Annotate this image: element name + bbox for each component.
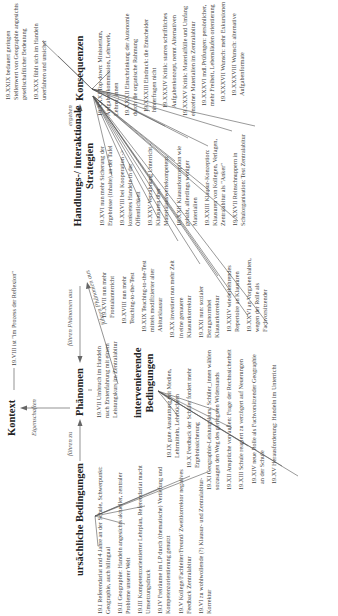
konsequenzen-item: 19.XXXVII Wunsch: mehr Exkursionen [219,2,227,116]
intervenierende-item: 19.IX gute Ausstattung mit Medien, Lehrm… [165,348,181,498]
kontext-note: 19.VIII ist "im Prozess der Reflexion" [10,271,18,366]
node-intervenierende-bedingungen: intervenierende Bedingungen [132,348,156,418]
konsequenzen-item: 19.XXXIV Kritik: starres schriftliches A… [161,2,177,116]
konsequenzen-item: 19.XXXIII Eindruck: die Entscheider hint… [142,2,158,116]
edge-eigenschaften: Eigenschaften [30,399,37,436]
strategien-item: 19.XVIII nun mehr Teaching-to-the-Test [120,258,136,338]
paradigm-diagram: Kontext 19.VIII ist "im Prozess der Refl… [0,0,338,616]
strategien-item: 19.XXI nun: sozialer Bezugsnormbei Klaus… [197,258,221,338]
intervenierende-item: 19.X Feedback der Schüler fordert mehr E… [185,348,201,498]
konsequenzen-item: 19.XXIX bedauert geringen Stellenwert vo… [4,2,28,100]
strategien-list-left: 19.XVII nun mehr Frontalunterricht 19.XV… [100,258,269,338]
strategien-item: 19.XVII nun mehr Frontalunterricht [100,258,116,338]
intervenierende-list: 19.IX gute Ausstattung mit Medien, Lehrm… [165,348,278,498]
ursaechliche-item: 19.III Kompetenzorientierter Lehrplan, R… [136,464,152,614]
intervenierende-item: 19.XV Herausforderung: Handeln im Unterr… [270,348,278,498]
konsequenzen-top-list: 19.XXIX bedauert geringen Stellenwert vo… [4,2,48,100]
intervenierende-item: 19.XI Geographie-Leistungskurs: Schüler_… [205,348,221,498]
strategien-item: 19.XXIII Klausur-Konzeption: Klausuren v… [203,131,227,226]
edge-fuehren-zu: führen zu [66,432,73,456]
strategien-item: 19.XXV Verzahnung Unterricht - Klausuren… [146,131,170,226]
phaenomen-item: 19.VII Umbruch im Handeln nach Erstenfah… [95,338,119,418]
konsequenzen-item: 19.XXX fühlt sich im Handeln unerfahren … [32,2,48,100]
konsequenzen-item: 19.XXXV Kritik: Materialfülle und Umfang… [181,2,197,116]
ursaechliche-item: 19.II Geographie: Handeln angesichts akt… [116,464,132,614]
konsequenzen-item: 19.XXXI Top-down: Ministerium, Aufgabenk… [96,2,120,116]
strategien-item: 19.XVI nun mehr Sicherung der Ergebnisse… [98,131,114,226]
strategien-item: 19.XXIV wiederkehrendes Repertoire an Kl… [225,258,241,338]
ursaechliche-item: 19.I Referendariat und 4 Jahre an der Sc… [96,464,112,614]
konsequenzen-item: 19.XXXVI mdl.Prüfungen: persönlicher, me… [200,2,216,116]
intervenierende-item: 19.XIV neue Rolle als Fachvorsitzender G… [250,348,266,498]
konsequenzen-item: 19.XXXVIII Wunsch: alternative Aufgabenf… [230,2,246,116]
strategien-item: 19.XX investiert nun mehr Zeit in eine g… [168,258,192,338]
node-phaenomen: Phänomen [74,368,85,416]
strategien-item: 19.XIX Teaching-to-the-Test mittels modi… [140,258,164,338]
konsequenzen-list: 19.XXXI Top-down: Ministerium, Aufgabenk… [96,2,246,116]
intervenierende-item: 19.XIII Schule reagiert zu verzögert auf… [237,348,245,498]
node-konsequenzen: Konsequenzen [74,36,85,101]
strategien-item: 19.XXVII Reinschnuppern in Schulorganisa… [231,131,247,226]
node-kontext: Kontext [6,400,17,436]
edge-ergeben: ergeben [66,105,73,126]
node-ursaechliche-bedingungen: ursächliche Bedingungen [74,463,85,576]
strategien-item: 19.XXII Klausurkonzeption wie gehabt, al… [175,131,199,226]
strategien-item: 19.XXVIII bei Kooperation -> konkretes H… [118,131,142,226]
konsequenzen-item: 19.XXXII Einschränkung der Autonomie dur… [123,2,139,116]
strategien-item: 19.XXVI an Vorgaben halten, wegen der Ro… [245,258,269,338]
edge-fuehren-phaenomen-aus: führen Phänomen aus [66,289,73,346]
intervenierende-item: 19.XII Ansprüche von außen: Frage der Re… [225,348,233,498]
node-strategien: Handlungs-/ interaktionale Strategien [72,96,96,236]
strategien-list-right: 19.XVI nun mehr Sicherung der Ergebnisse… [98,131,247,226]
